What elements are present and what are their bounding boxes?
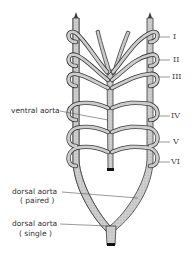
arch-label-I: I <box>173 32 176 41</box>
dorsal-aorta-single-sublabel: ( single ) <box>19 229 52 238</box>
arch-label-III: III <box>172 72 181 81</box>
dorsal-aorta-single-label: dorsal aorta <box>12 219 57 228</box>
arch-label-IV: IV <box>171 111 180 120</box>
ventral-aorta-label: ventral aorta <box>11 106 60 115</box>
leader-dorsal-paired <box>62 192 138 198</box>
arch-label-II: II <box>173 55 179 64</box>
arch-label-V: V <box>173 137 179 146</box>
arch-label-VI: VI <box>171 157 180 166</box>
aortic-arches-diagram <box>0 0 196 253</box>
single-dorsal-aorta-end <box>107 243 115 246</box>
dorsal-aorta-paired-sublabel: ( paired ) <box>20 196 54 205</box>
ventral-aorta-end <box>107 168 114 171</box>
dorsal-aorta-paired-label: dorsal aorta <box>12 187 57 196</box>
single-dorsal-aorta <box>106 226 116 245</box>
